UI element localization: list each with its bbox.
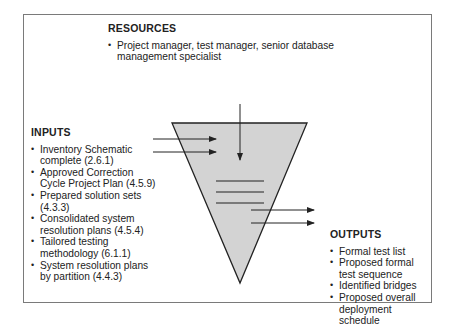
list-item: Approved Correction Cycle Project Plan (…: [31, 167, 161, 190]
list-item: Identified bridges: [330, 280, 430, 292]
outputs-list: Formal test list Proposed formal test se…: [330, 246, 430, 327]
list-item: System resolution plans by partition (4.…: [31, 260, 161, 283]
list-item: Consolidated system resolution plans (4.…: [31, 213, 161, 236]
list-item: Tailored testing methodology (6.1.1): [31, 236, 161, 259]
list-item: Proposed overall deployment schedule: [330, 292, 430, 327]
resources-block: RESOURCES Project manager, test manager,…: [108, 23, 348, 63]
list-item: Project manager, test manager, senior da…: [108, 40, 348, 63]
outputs-block: OUTPUTS Formal test list Proposed formal…: [330, 229, 430, 327]
inputs-title: INPUTS: [31, 127, 161, 139]
inputs-list: Inventory Schematic complete (2.6.1) App…: [31, 144, 161, 283]
resources-title: RESOURCES: [108, 23, 348, 35]
list-item: Prepared solution sets (4.3.3): [31, 190, 161, 213]
inputs-block: INPUTS Inventory Schematic complete (2.6…: [31, 127, 161, 283]
list-item: Proposed formal test sequence: [330, 257, 430, 280]
list-item: Formal test list: [330, 246, 430, 258]
list-item: Inventory Schematic complete (2.6.1): [31, 144, 161, 167]
outputs-title: OUTPUTS: [330, 229, 430, 241]
resources-list: Project manager, test manager, senior da…: [108, 40, 348, 63]
